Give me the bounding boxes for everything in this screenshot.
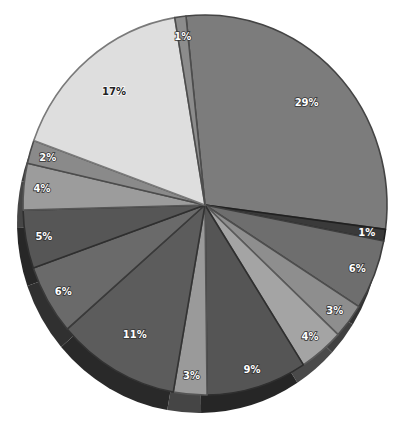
- slice-value-label: 1%: [358, 227, 375, 238]
- slice-value-label: 3%: [183, 370, 200, 381]
- slice-value-label: 6%: [55, 286, 72, 297]
- slice-value-label: 6%: [349, 263, 366, 274]
- slice-value-label: 9%: [244, 364, 261, 375]
- slice-value-label: 17%: [102, 86, 126, 97]
- slice-value-label: 29%: [295, 97, 319, 108]
- pie-slices: [23, 15, 387, 395]
- slice-value-label: 3%: [326, 305, 343, 316]
- slice-value-label: 4%: [34, 183, 51, 194]
- slice-value-label: 5%: [35, 231, 52, 242]
- slice-value-label: 1%: [174, 31, 191, 42]
- slice-value-label: 2%: [39, 152, 56, 163]
- slice-value-label: 11%: [123, 329, 147, 340]
- pie-slice: [186, 15, 387, 229]
- slice-value-label: 4%: [302, 331, 319, 342]
- pie-chart: 29%1%6%3%4%9%3%11%6%5%4%2%17%1%: [0, 0, 401, 427]
